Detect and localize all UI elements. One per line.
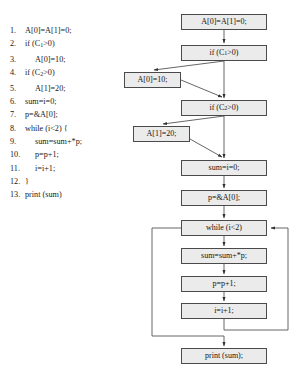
flow-node-label: print (sum); — [205, 352, 243, 360]
flow-node-label-part: >0) — [227, 49, 238, 57]
flow-node-sum_add: sum=sum+*p; — [181, 248, 267, 264]
flow-node-label: i=i+1; — [214, 307, 234, 315]
flow-node-label-part: if (C — [209, 104, 224, 112]
flow-node-label: sum=i=0; — [209, 164, 240, 172]
flow-node-a1_20: A[1]=20; — [133, 126, 190, 142]
flow-node-label: p=&A[0]; — [208, 194, 240, 202]
flow-node-sum_i_0: sum=i=0; — [181, 160, 267, 176]
flow-node-label: A[0]=A[1]=0; — [201, 18, 246, 26]
flow-node-label: A[0]=10; — [138, 76, 168, 84]
edge-a1-20-to-sum-i-0 — [190, 139, 222, 157]
control-flow-graph: A[0]=A[1]=0;if (C1>0)A[0]=10;if (C2>0)A[… — [0, 0, 299, 377]
flow-node-i_inc: i=i+1; — [181, 303, 267, 319]
flow-node-print: print (sum); — [181, 348, 267, 364]
flow-node-label: p=p+1; — [212, 280, 235, 288]
flow-node-label: sum=sum+*p; — [201, 252, 247, 260]
flow-node-if_c1: if (C1>0) — [181, 45, 267, 61]
flow-node-p_inc: p=p+1; — [181, 276, 267, 292]
edge-if-c1-to-a0-10 — [154, 61, 224, 70]
flow-node-label: A[1]=20; — [147, 130, 177, 138]
edge-a0-10-to-if-c2 — [181, 80, 222, 97]
flow-node-label-part: >0) — [227, 104, 238, 112]
flow-node-a0_10: A[0]=10; — [124, 72, 181, 88]
flow-node-while_i2: while (i<2) — [181, 220, 267, 236]
flow-node-p_addr: p=&A[0]; — [181, 190, 267, 206]
flow-node-init: A[0]=A[1]=0; — [181, 14, 267, 30]
flow-node-label: while (i<2) — [206, 224, 242, 232]
edge-if-c2-to-a1-20 — [163, 116, 224, 124]
flow-node-if_c2: if (C2>0) — [181, 100, 267, 116]
flow-node-label-part: if (C — [209, 49, 224, 57]
